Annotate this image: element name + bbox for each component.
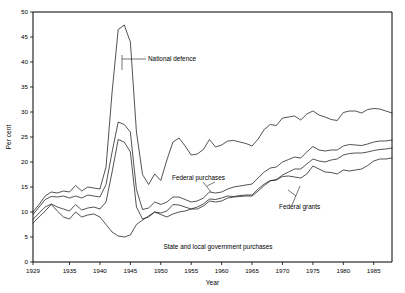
x-tick-label: 1965 (245, 267, 259, 274)
y-tick-label: 50 (21, 8, 28, 15)
x-tick-label: 1929 (26, 267, 40, 274)
x-tick-label: 1970 (276, 267, 290, 274)
chart-figure: 0510152025303540455019291935194019451950… (0, 0, 405, 293)
y-tick-label: 15 (21, 183, 28, 190)
y-tick-label: 35 (21, 83, 28, 90)
annotation-federal-grants: Federal grants (279, 203, 320, 211)
x-tick-label: 1935 (63, 267, 77, 274)
x-tick-label: 1950 (154, 267, 168, 274)
y-tick-label: 20 (21, 158, 28, 165)
y-axis-title: Per cent (5, 125, 12, 150)
annotation-national-defence: National defence (148, 55, 196, 62)
x-tick-label: 1940 (93, 267, 107, 274)
x-tick-label: 1980 (336, 267, 350, 274)
x-tick-label: 1960 (215, 267, 229, 274)
x-tick-label: 1985 (367, 267, 381, 274)
y-tick-label: 30 (21, 108, 28, 115)
x-tick-label: 1945 (123, 267, 137, 274)
y-tick-label: 45 (21, 33, 28, 40)
y-tick-label: 0 (25, 258, 29, 265)
annotation-state-local: State and local government purchases (163, 243, 272, 251)
x-tick-label: 1955 (184, 267, 198, 274)
line-chart: 0510152025303540455019291935194019451950… (0, 0, 405, 293)
y-tick-label: 10 (21, 208, 28, 215)
annotation-federal-purchases: Federal purchases (172, 174, 225, 182)
x-axis-title: Year (206, 279, 220, 286)
y-tick-label: 5 (25, 233, 29, 240)
y-tick-label: 25 (21, 133, 28, 140)
x-tick-label: 1975 (306, 267, 320, 274)
y-tick-label: 40 (21, 58, 28, 65)
